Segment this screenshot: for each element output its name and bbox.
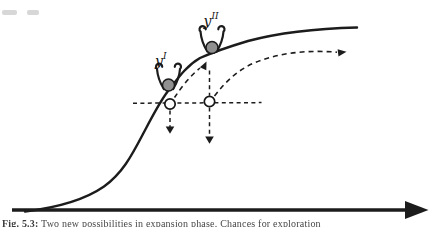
unstable-point-2: [204, 96, 214, 106]
caption-clipped: Fig. 5.3: Two new possibilities in expan…: [2, 218, 432, 227]
diagram-svg: yI yII: [0, 0, 435, 227]
caption-text: Two new possibilities in expansion phase…: [41, 218, 321, 227]
figure-stage: yI yII Fig. 5.3: Two new possibilities i…: [0, 0, 435, 227]
dashed-baseline: [133, 103, 262, 104]
trajectory-to-state-2: [175, 62, 207, 98]
trajectory-forward: [215, 49, 347, 96]
caption-figure-number: Fig. 5.3:: [2, 218, 39, 227]
ball-icon: [163, 79, 175, 91]
state-label-2: yII: [203, 11, 219, 29]
down-arrowhead: [166, 127, 175, 134]
x-axis-arrow: [12, 201, 429, 219]
axis-arrowhead: [405, 201, 429, 219]
down-arrowhead: [205, 137, 214, 144]
drop-arrow-2: [205, 137, 214, 144]
unstable-point-1: [165, 99, 175, 109]
ball-icon: [206, 42, 218, 54]
up-arrowhead: [200, 62, 207, 71]
growth-curve: [25, 28, 357, 212]
right-arrowhead: [338, 49, 347, 56]
state-label-1: yI: [154, 51, 167, 69]
state-marker-2: yII: [200, 11, 225, 54]
drop-arrow-1: [166, 111, 175, 134]
state-marker-1: yI: [154, 51, 181, 92]
